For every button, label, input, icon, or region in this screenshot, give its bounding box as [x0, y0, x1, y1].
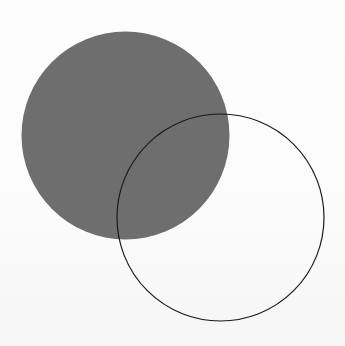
filled-circle: [22, 32, 230, 240]
overlapping-circles-diagram: [0, 0, 345, 346]
diagram-canvas: [0, 0, 345, 346]
